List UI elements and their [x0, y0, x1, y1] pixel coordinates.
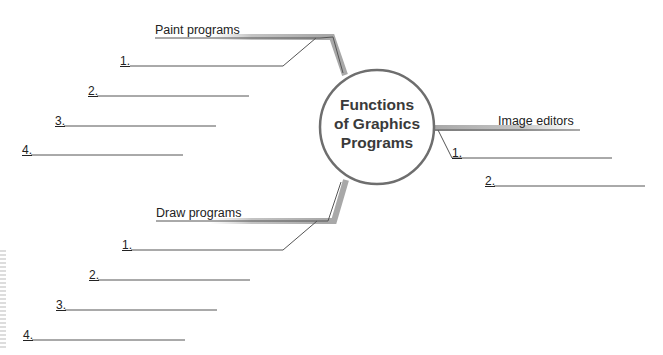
- draw-programs-answer-lines: [32, 250, 283, 340]
- branch-label-paint-programs: Paint programs: [155, 23, 240, 37]
- image-item-2-number: 2.: [485, 174, 495, 188]
- cropped-side-text: [0, 250, 6, 350]
- draw-item-2-number: 2.: [89, 268, 99, 282]
- mind-map-canvas: [0, 0, 663, 355]
- center-title-line-3: Programs: [320, 133, 434, 152]
- center-title-line-2: of Graphics: [320, 114, 434, 133]
- paint-item-4-number: 4.: [22, 143, 32, 157]
- paint-programs-connector: [155, 34, 345, 75]
- branch-label-draw-programs: Draw programs: [156, 206, 241, 220]
- draw-item-1-number: 1.: [122, 238, 132, 252]
- paint-item-2-number: 2.: [88, 84, 98, 98]
- paint-programs-answer-lines: [31, 66, 283, 155]
- draw-item-3-number: 3.: [56, 298, 66, 312]
- draw-item-4-number: 4.: [23, 328, 33, 342]
- image-editors-answer-lines: [452, 158, 645, 186]
- center-title-line-1: Functions: [320, 95, 434, 114]
- paint-item-1-number: 1.: [120, 54, 130, 68]
- branch-label-image-editors: Image editors: [498, 114, 574, 128]
- paint-item-3-number: 3.: [55, 114, 65, 128]
- center-title: Functions of Graphics Programs: [320, 95, 434, 152]
- image-item-1-number: 1.: [452, 146, 462, 160]
